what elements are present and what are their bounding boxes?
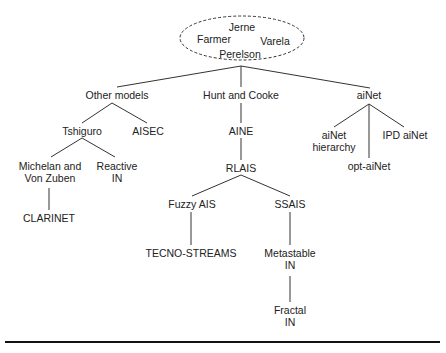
node-other-models: Other models — [85, 89, 148, 101]
node-aisec: AISEC — [132, 125, 164, 137]
node-ainet-hierarchy: aiNet hierarchy — [312, 129, 355, 153]
node-ainet: aiNet — [357, 89, 382, 101]
node-ssais: SSAIS — [275, 198, 306, 210]
node-ipd-ainet: IPD aiNet — [383, 129, 428, 141]
root-name-farmer: Farmer — [197, 33, 231, 45]
node-aine: AINE — [229, 125, 254, 137]
root-name-varela: Varela — [260, 35, 290, 47]
node-rlais: RLAIS — [226, 162, 256, 174]
node-fuzzy-ais: Fuzzy AIS — [168, 198, 215, 210]
bottom-rule — [5, 341, 440, 343]
node-tecno-streams: TECNO-STREAMS — [145, 247, 236, 259]
node-opt-ainet: opt-aiNet — [348, 160, 391, 172]
node-clarinet: CLARINET — [23, 212, 75, 224]
node-metastable-in: Metastable IN — [264, 247, 315, 271]
node-michelan-von-zuben: Michelan and Von Zuben — [19, 160, 81, 184]
root-name-perelson: Perelson — [219, 48, 260, 60]
node-tshiguro: Tshiguro — [62, 125, 102, 137]
node-reactive-in: Reactive IN — [97, 160, 138, 184]
tree-diagram: Jerne Farmer Varela Perelson Other model… — [0, 0, 446, 353]
node-hunt-and-cooke: Hunt and Cooke — [203, 89, 279, 101]
root-name-jerne: Jerne — [229, 21, 255, 33]
node-fractal-in: Fractal IN — [274, 304, 306, 328]
